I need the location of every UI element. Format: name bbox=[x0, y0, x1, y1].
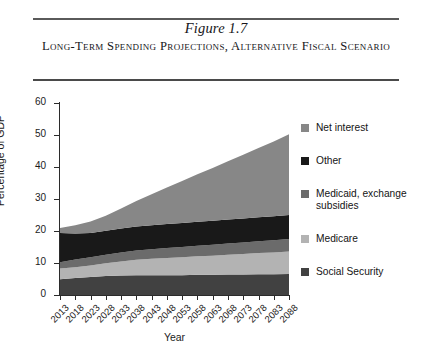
x-axis-line bbox=[59, 295, 290, 296]
y-tick-label: 40 bbox=[35, 160, 46, 171]
x-tick bbox=[167, 296, 168, 300]
y-tick bbox=[54, 135, 59, 136]
x-tick bbox=[106, 296, 107, 300]
figure-number: Figure 1.7 bbox=[33, 20, 399, 37]
y-tick-label: 0 bbox=[40, 288, 46, 299]
y-tick bbox=[54, 167, 59, 168]
legend-label: Medicare bbox=[316, 233, 358, 245]
area-series bbox=[60, 274, 289, 295]
legend-swatch bbox=[301, 124, 309, 132]
x-tick bbox=[60, 296, 61, 300]
figure-title-block: Figure 1.7 Long-Term Spending Projection… bbox=[33, 20, 399, 54]
legend-swatch bbox=[301, 157, 309, 165]
x-tick bbox=[152, 296, 153, 300]
x-tick bbox=[75, 296, 76, 300]
legend-swatch bbox=[301, 268, 309, 276]
figure-title: Long-Term Spending Projections, Alternat… bbox=[33, 38, 399, 54]
legend-label: Medicaid, exchange subsidies bbox=[316, 188, 407, 212]
y-tick bbox=[54, 231, 59, 232]
title-rule-bottom bbox=[33, 79, 399, 81]
y-tick bbox=[54, 295, 59, 296]
y-tick-label: 50 bbox=[35, 128, 46, 139]
legend-swatch bbox=[301, 190, 309, 198]
x-tick bbox=[259, 296, 260, 300]
legend-swatch bbox=[301, 235, 309, 243]
y-tick-label: 30 bbox=[35, 192, 46, 203]
y-tick-label: 60 bbox=[35, 96, 46, 107]
y-tick bbox=[54, 263, 59, 264]
x-tick bbox=[136, 296, 137, 300]
legend-label: Social Security bbox=[316, 266, 383, 278]
chart-area: Percentage of GDP 0102030405060 20132018… bbox=[0, 88, 432, 356]
x-tick bbox=[289, 296, 290, 300]
y-tick-label: 10 bbox=[35, 256, 46, 267]
x-tick bbox=[228, 296, 229, 300]
stacked-area-plot bbox=[60, 103, 289, 295]
x-tick bbox=[274, 296, 275, 300]
legend-item[interactable]: Medicaid, exchange subsidies bbox=[301, 188, 429, 212]
legend-label: Other bbox=[316, 155, 341, 167]
y-axis-title: Percentage of GDP bbox=[0, 115, 6, 206]
x-axis-title: Year bbox=[59, 331, 290, 343]
x-tick bbox=[213, 296, 214, 300]
x-tick bbox=[243, 296, 244, 300]
legend-item[interactable]: Net interest bbox=[301, 122, 429, 134]
x-tick bbox=[182, 296, 183, 300]
y-tick-label: 20 bbox=[35, 224, 46, 235]
x-tick bbox=[121, 296, 122, 300]
x-tick bbox=[197, 296, 198, 300]
figure-container: Figure 1.7 Long-Term Spending Projection… bbox=[0, 0, 432, 356]
chart-legend: Net interestOtherMedicaid, exchange subs… bbox=[301, 122, 429, 299]
y-tick bbox=[54, 199, 59, 200]
legend-item[interactable]: Medicare bbox=[301, 233, 429, 245]
legend-label: Net interest bbox=[316, 122, 368, 134]
legend-item[interactable]: Other bbox=[301, 155, 429, 167]
x-tick bbox=[91, 296, 92, 300]
y-tick bbox=[54, 103, 59, 104]
stacked-area-svg bbox=[60, 103, 289, 295]
legend-item[interactable]: Social Security bbox=[301, 266, 429, 278]
